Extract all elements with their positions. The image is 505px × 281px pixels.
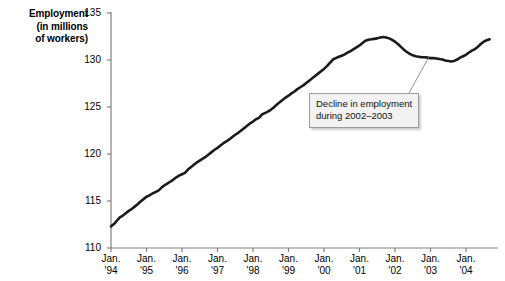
y-axis-tick-label: 130 — [75, 55, 101, 65]
annotation-leader-line — [409, 57, 429, 93]
annotation-line-1: Decline in employment — [316, 98, 412, 110]
x-axis-tick-label-month: Jan. — [375, 253, 415, 265]
x-axis-tick-label-month: Jan. — [198, 253, 238, 265]
x-axis-tick-label-month: Jan. — [162, 253, 202, 265]
x-axis-tick-label-year: '97 — [198, 265, 238, 277]
x-axis-tick-label-month: Jan. — [340, 253, 380, 265]
x-axis-tick-label-month: Jan. — [233, 253, 273, 265]
y-axis-tick-label: 110 — [75, 243, 101, 253]
plot-area — [0, 0, 505, 281]
x-axis-tick-label: Jan.'01 — [340, 253, 380, 276]
x-axis-tick-label-year: '00 — [304, 265, 344, 277]
x-axis-tick-label: Jan.'04 — [446, 253, 486, 276]
decline-annotation-callout: Decline in employment during 2002–2003 — [309, 93, 419, 128]
x-axis-tick-label-year: '01 — [340, 265, 380, 277]
axes — [111, 12, 498, 248]
x-axis-tick-label: Jan.'95 — [127, 253, 167, 276]
x-axis-tick-label-year: '98 — [233, 265, 273, 277]
x-axis-tick-label-year: '04 — [446, 265, 486, 277]
x-axis-ticks — [111, 248, 466, 252]
x-axis-tick-label: Jan.'96 — [162, 253, 202, 276]
x-axis-tick-label: Jan.'98 — [233, 253, 273, 276]
x-axis-tick-label: Jan.'02 — [375, 253, 415, 276]
employment-data-line — [111, 37, 490, 226]
employment-line-chart: Employment (in millions of workers) 1101… — [0, 0, 505, 281]
x-axis-tick-label: Jan.'00 — [304, 253, 344, 276]
x-axis-tick-label-year: '94 — [91, 265, 131, 277]
x-axis-tick-label-year: '02 — [375, 265, 415, 277]
x-axis-tick-label-month: Jan. — [91, 253, 131, 265]
x-axis-tick-label-year: '99 — [269, 265, 309, 277]
x-axis-tick-label-month: Jan. — [127, 253, 167, 265]
x-axis-tick-label-month: Jan. — [304, 253, 344, 265]
x-axis-tick-label: Jan.'99 — [269, 253, 309, 276]
y-axis-tick-label: 120 — [75, 149, 101, 159]
y-axis-tick-label: 125 — [75, 102, 101, 112]
x-axis-tick-label: Jan.'03 — [411, 253, 451, 276]
x-axis-tick-label: Jan.'94 — [91, 253, 131, 276]
y-axis-tick-label: 115 — [75, 196, 101, 206]
y-axis-tick-label: 135 — [75, 8, 101, 18]
x-axis-tick-label-year: '96 — [162, 265, 202, 277]
x-axis-tick-label-year: '03 — [411, 265, 451, 277]
x-axis-tick-label-year: '95 — [127, 265, 167, 277]
x-axis-tick-label-month: Jan. — [446, 253, 486, 265]
x-axis-tick-label-month: Jan. — [411, 253, 451, 265]
annotation-line-2: during 2002–2003 — [316, 110, 412, 122]
x-axis-tick-label: Jan.'97 — [198, 253, 238, 276]
x-axis-tick-label-month: Jan. — [269, 253, 309, 265]
